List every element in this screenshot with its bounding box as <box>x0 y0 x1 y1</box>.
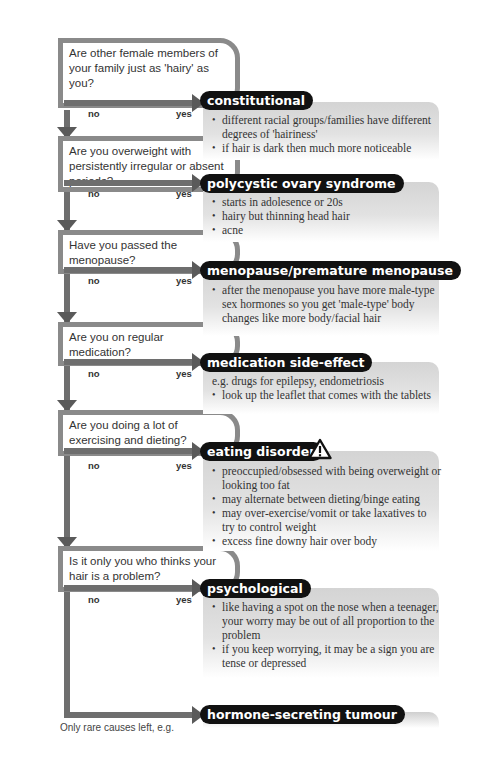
yes-connector-3 <box>64 267 194 273</box>
no-label: no <box>88 275 100 286</box>
outcome-title-6: psychological <box>200 579 311 598</box>
question-text: Is it only you who thinks your hair is a… <box>69 555 216 582</box>
yes-label: yes <box>176 275 192 286</box>
outcome-body-6: like having a spot on the nose when a te… <box>212 600 442 670</box>
yes-label: yes <box>176 594 192 605</box>
outcome-title-5: eating disorder <box>200 442 323 461</box>
yes-label: yes <box>176 188 192 199</box>
no-label: no <box>88 188 100 199</box>
outcome-body-4: e.g. drugs for epilepsy, endometriosis l… <box>212 374 442 402</box>
outcome-body-5: preoccupied/obsessed with being overweig… <box>212 464 442 548</box>
bullet: look up the leaflet that comes with the … <box>212 388 442 402</box>
bullet: different racial groups/families have di… <box>212 113 442 141</box>
outcome-body-2: starts in adolesence or 20s hairy but th… <box>212 195 442 237</box>
yes-label: yes <box>176 460 192 471</box>
bullet: may alternate between dieting/binge eati… <box>212 492 442 506</box>
yes-connector-2 <box>64 180 194 186</box>
no-label: no <box>88 108 100 119</box>
bullet: hairy but thinning head hair <box>212 209 442 223</box>
yes-connector-4 <box>64 359 194 365</box>
yes-connector-5 <box>64 448 194 454</box>
final-connector <box>64 712 194 718</box>
question-text: Are you doing a lot of exercising and di… <box>69 419 187 446</box>
outcome-body-3: after the menopause you have more male-t… <box>212 283 442 325</box>
intro-text: e.g. drugs for epilepsy, endometriosis <box>212 374 442 388</box>
bullet: after the menopause you have more male-t… <box>212 283 442 325</box>
bullet: if you keep worrying, it may be a sign y… <box>212 642 442 670</box>
outcome-title-7: hormone-secreting tumour <box>200 705 405 724</box>
question-text: Have you passed the menopause? <box>69 239 177 266</box>
yes-label: yes <box>176 108 192 119</box>
question-text: Are other female members of your family … <box>69 47 218 89</box>
bullet: starts in adolesence or 20s <box>212 195 442 209</box>
bullet: may over-exercise/vomit or take laxative… <box>212 506 442 534</box>
bullet: acne <box>212 223 442 237</box>
bullet: preoccupied/obsessed with being overweig… <box>212 464 442 492</box>
no-label: no <box>88 594 100 605</box>
bullet: excess fine downy hair over body <box>212 534 442 548</box>
bullet: like having a spot on the nose when a te… <box>212 600 442 642</box>
no-label: no <box>88 368 100 379</box>
yes-label: yes <box>176 368 192 379</box>
question-text: Are you on regular medication? <box>69 331 164 358</box>
outcome-title-1: constitutional <box>200 91 313 110</box>
outcome-title-4: medication side-effect <box>200 353 372 372</box>
yes-connector-6 <box>64 585 194 591</box>
yes-connector-1 <box>64 100 194 106</box>
bullet: if hair is dark then much more noticeabl… <box>212 141 442 155</box>
outcome-title-2: polycystic ovary syndrome <box>200 174 404 193</box>
outcome-title-3: menopause/premature menopause <box>200 261 461 280</box>
footnote: Only rare causes left, e.g. <box>60 722 174 733</box>
no-label: no <box>88 460 100 471</box>
outcome-body-1: different racial groups/families have di… <box>212 113 442 155</box>
warning-triangle-icon <box>308 438 332 460</box>
